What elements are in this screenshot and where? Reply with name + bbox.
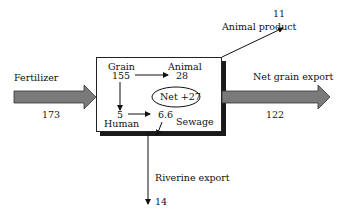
riverine-export-label: Riverine export <box>155 173 230 183</box>
net-grain-export-label: Net grain export <box>253 72 333 82</box>
animal-product-arrow-icon <box>222 28 283 57</box>
sewage-label: Sewage <box>176 117 214 127</box>
net-grain-export-arrow-icon <box>222 85 330 109</box>
net-label: Net +27 <box>160 92 201 102</box>
animal-value: 28 <box>176 71 188 81</box>
human-label: Human <box>104 119 139 129</box>
net-grain-export-value: 122 <box>266 110 284 120</box>
animal-product-value: 11 <box>273 9 285 19</box>
animal-product-label: Animal product <box>222 22 296 32</box>
fertilizer-arrow-icon <box>14 85 96 109</box>
riverine-export-value: 14 <box>155 197 167 207</box>
grain-value: 155 <box>112 71 130 81</box>
fertilizer-label: Fertilizer <box>14 73 58 83</box>
fertilizer-value: 173 <box>42 110 60 120</box>
sewage-value: 6.6 <box>158 110 173 120</box>
sewage-arrow-icon <box>157 122 162 135</box>
